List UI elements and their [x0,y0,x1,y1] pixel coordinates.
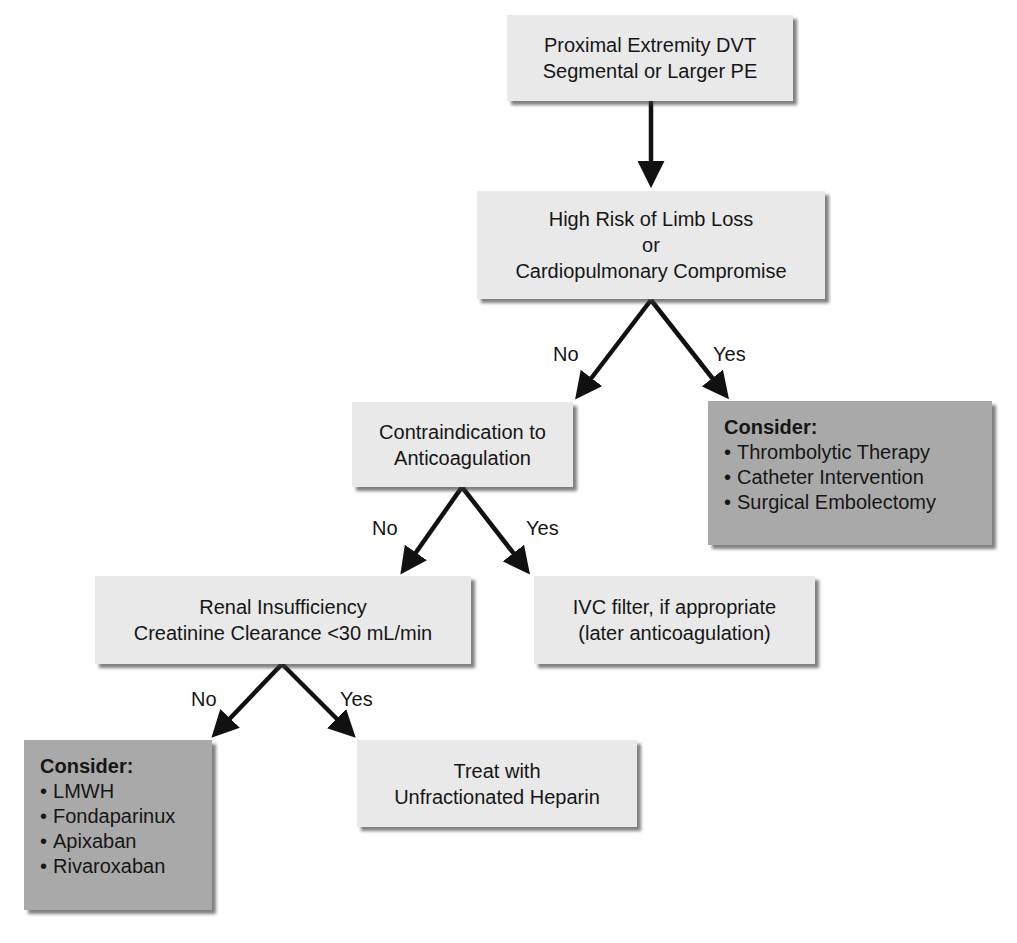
consider-invasive-item: Thrombolytic Therapy [724,440,930,465]
consider-anticoag-item: Rivaroxaban [40,854,165,879]
consider-anticoag-item: Apixaban [40,829,136,854]
node-high-risk-line-1: High Risk of Limb Loss [549,206,754,232]
label-contra-no: No [372,517,398,539]
consider-invasive-item: Catheter Intervention [724,465,924,490]
node-ufh-line-2: Unfractionated Heparin [394,784,600,810]
node-ivc-line-1: IVC filter, if appropriate [573,594,776,620]
node-ivc: IVC filter, if appropriate (later antico… [534,576,815,664]
node-contraindication-line-1: Contraindication to [379,419,546,445]
label-high-risk-no: No [553,343,579,365]
node-ufh-line-1: Treat with [453,758,540,784]
node-start-line-1: Proximal Extremity DVT [544,32,756,58]
consider-anticoag-item: LMWH [40,779,114,804]
node-contraindication: Contraindication to Anticoagulation [352,402,573,487]
consider-anticoag-item: Fondaparinux [40,804,175,829]
node-high-risk: High Risk of Limb Loss or Cardiopulmonar… [477,191,825,299]
label-contra-yes: Yes [526,517,559,539]
arrow-contra-yes [462,487,525,568]
node-start-line-2: Segmental or Larger PE [543,58,758,84]
consider-invasive-item: Surgical Embolectomy [724,490,936,515]
node-start: Proximal Extremity DVT Segmental or Larg… [507,15,793,101]
node-renal: Renal Insufficiency Creatinine Clearance… [95,576,471,664]
arrow-highrisk-no [580,300,651,393]
node-ufh: Treat with Unfractionated Heparin [357,740,637,827]
label-renal-no: No [191,688,217,710]
node-contraindication-line-2: Anticoagulation [394,445,531,471]
arrow-renal-no [217,664,282,732]
arrow-contra-no [405,487,462,568]
node-consider-invasive: Consider: Thrombolytic Therapy Catheter … [708,401,992,545]
label-high-risk-yes: Yes [713,343,746,365]
node-renal-line-2: Creatinine Clearance <30 mL/min [134,620,433,646]
node-renal-line-1: Renal Insufficiency [199,594,367,620]
node-high-risk-line-2: or [642,232,660,258]
consider-invasive-heading: Consider: [724,415,817,440]
node-ivc-line-2: (later anticoagulation) [578,620,770,646]
label-renal-yes: Yes [340,688,373,710]
consider-anticoag-heading: Consider: [40,754,133,779]
node-consider-anticoagulants: Consider: LMWH Fondaparinux Apixaban Riv… [24,740,212,910]
node-high-risk-line-3: Cardiopulmonary Compromise [515,258,786,284]
